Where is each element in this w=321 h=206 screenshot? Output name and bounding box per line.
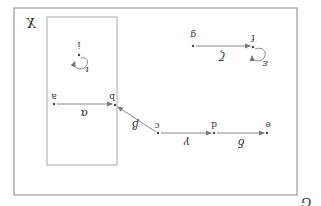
node-a-label: a <box>51 92 57 102</box>
node-f-label: f <box>251 33 255 43</box>
node-i-label: i <box>77 40 80 50</box>
node-c-label: c <box>154 121 159 131</box>
node-b <box>114 104 116 106</box>
category-diagram: G X a b c d e g f i α β γ δ ζ ε ι <box>0 0 321 206</box>
loop-epsilon <box>252 48 265 61</box>
node-e-label: e <box>265 120 270 130</box>
node-g-label: g <box>190 30 196 40</box>
edge-iota-label: ι <box>85 65 89 76</box>
node-c <box>157 132 159 134</box>
node-e <box>266 132 268 134</box>
edge-alpha-label: α <box>80 107 88 120</box>
outer-box-label: G <box>301 195 311 206</box>
node-d-label: d <box>211 120 217 130</box>
edge-beta-label: β <box>132 118 139 131</box>
node-g <box>192 45 194 47</box>
edge-delta-label: δ <box>237 136 244 149</box>
node-b-label: b <box>109 92 115 102</box>
edge-zeta-label: ζ <box>218 49 225 62</box>
node-d <box>213 132 215 134</box>
node-f <box>252 46 254 48</box>
edge-gamma-label: γ <box>183 136 190 149</box>
inner-box-x <box>47 17 117 165</box>
node-a <box>53 103 55 105</box>
edge-epsilon-label: ε <box>262 59 267 70</box>
diagram-canvas: G X a b c d e g f i α β γ δ ζ ε ι <box>0 0 321 206</box>
inner-box-label: X <box>26 17 36 31</box>
node-i <box>78 54 80 56</box>
